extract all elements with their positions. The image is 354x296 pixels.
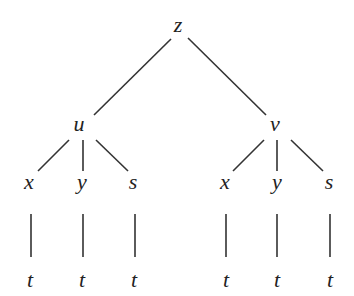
node-uy: y <box>75 169 87 194</box>
node-vyt: t <box>274 267 281 292</box>
node-vst: t <box>327 267 334 292</box>
node-u: u <box>74 111 85 136</box>
node-ux: x <box>23 169 34 194</box>
node-uyt: t <box>79 267 86 292</box>
node-vx: x <box>219 169 230 194</box>
edge-z-u <box>94 39 171 115</box>
edge-v-vx <box>233 140 264 171</box>
node-v: v <box>270 111 280 136</box>
node-ust: t <box>131 267 138 292</box>
edge-u-ux <box>38 140 69 171</box>
node-us: s <box>129 169 138 194</box>
tree-nodes: zuvxysxystttttt <box>23 12 334 292</box>
node-vxt: t <box>223 267 230 292</box>
node-z: z <box>173 12 183 37</box>
node-vs: s <box>325 169 334 194</box>
node-vy: y <box>270 169 282 194</box>
tree-diagram: zuvxysxystttttt <box>0 0 354 296</box>
edge-z-v <box>188 38 266 115</box>
edge-v-vs <box>291 140 323 171</box>
tree-edges <box>31 38 330 257</box>
edge-u-us <box>96 140 128 171</box>
node-uxt: t <box>27 267 34 292</box>
